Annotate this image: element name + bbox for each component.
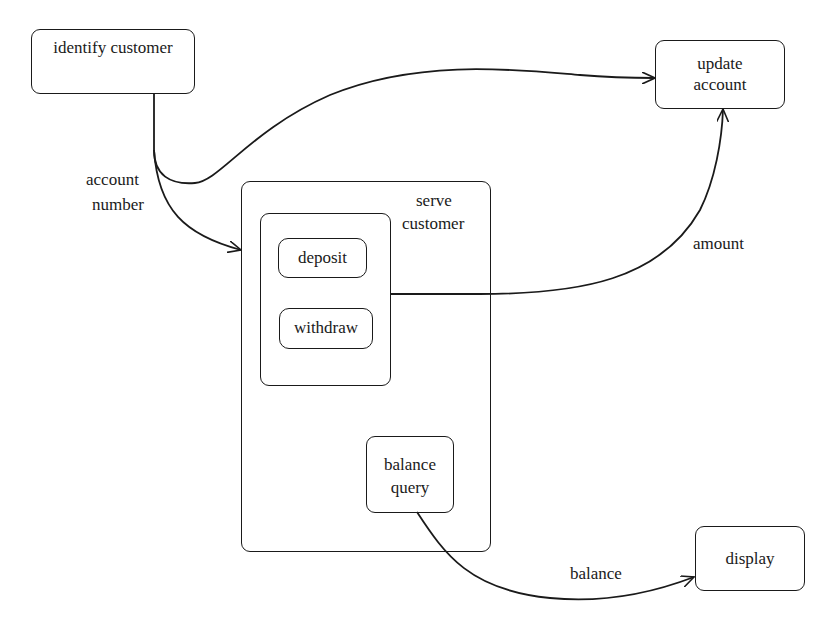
edge-label-balance: balance bbox=[570, 563, 622, 584]
node-balance-query-line2: query bbox=[367, 477, 453, 498]
edge-label-number: number bbox=[92, 194, 144, 215]
node-balance-query[interactable]: balance query bbox=[366, 436, 454, 513]
node-display-label: display bbox=[696, 548, 804, 569]
edge-account-number bbox=[154, 150, 241, 250]
node-deposit-label: deposit bbox=[279, 247, 366, 268]
node-withdraw[interactable]: withdraw bbox=[279, 308, 373, 349]
edge-identify-to-update bbox=[154, 69, 655, 183]
node-identify-customer-label: identify customer bbox=[32, 37, 194, 58]
node-balance-query-line1: balance bbox=[367, 454, 453, 475]
node-serve-customer-line1: serve bbox=[416, 190, 452, 211]
node-serve-customer-line2: customer bbox=[402, 213, 464, 234]
diagram-canvas: identify customer update account serve c… bbox=[0, 0, 838, 627]
node-deposit[interactable]: deposit bbox=[278, 238, 367, 278]
node-update-account-line2: account bbox=[656, 74, 784, 95]
node-display[interactable]: display bbox=[695, 526, 805, 591]
node-update-account-line1: update bbox=[656, 53, 784, 74]
edge-label-amount: amount bbox=[693, 233, 744, 254]
edge-label-account: account bbox=[86, 169, 139, 190]
node-identify-customer[interactable]: identify customer bbox=[31, 29, 195, 94]
node-update-account[interactable]: update account bbox=[655, 40, 785, 109]
node-withdraw-label: withdraw bbox=[280, 317, 372, 338]
